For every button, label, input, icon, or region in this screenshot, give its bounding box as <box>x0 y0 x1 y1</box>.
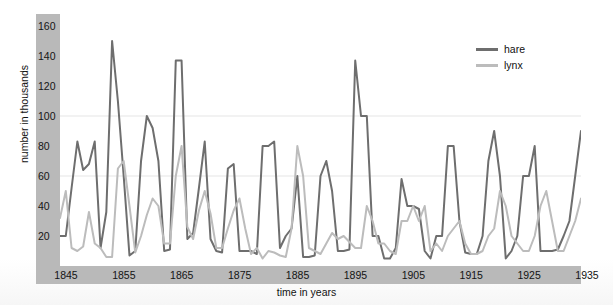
chart-page: 20406080100120140160 1845185518651875188… <box>0 0 613 305</box>
y-tick-label: 100 <box>38 110 56 122</box>
y-tick-label: 80 <box>38 140 50 152</box>
x-tick-label: 1895 <box>344 269 367 281</box>
y-tick-label: 40 <box>38 200 50 212</box>
x-tick-label: 1925 <box>517 269 540 281</box>
legend-label-hare: hare <box>504 43 525 55</box>
x-tick-label: 1845 <box>54 269 77 281</box>
legend-swatch-lynx <box>476 64 498 67</box>
legend-item-lynx: lynx <box>476 58 556 72</box>
x-tick-label: 1905 <box>402 269 425 281</box>
y-tick-label: 60 <box>38 170 50 182</box>
x-tick-label: 1935 <box>575 269 598 281</box>
y-tick-label: 140 <box>38 50 56 62</box>
x-axis-title: time in years <box>0 286 613 298</box>
legend: harelynx <box>476 42 556 74</box>
x-tick-label: 1855 <box>112 269 135 281</box>
legend-item-hare: hare <box>476 42 556 56</box>
y-tick-label: 20 <box>38 230 50 242</box>
legend-label-lynx: lynx <box>504 59 523 71</box>
x-tick-label: 1885 <box>286 269 309 281</box>
x-tick-label: 1865 <box>170 269 193 281</box>
y-tick-label: 160 <box>38 20 56 32</box>
x-tick-label: 1875 <box>228 269 251 281</box>
y-axis-title: number in thousands <box>18 48 30 180</box>
x-tick-label: 1915 <box>460 269 483 281</box>
y-tick-label: 120 <box>38 80 56 92</box>
legend-swatch-hare <box>476 48 498 51</box>
